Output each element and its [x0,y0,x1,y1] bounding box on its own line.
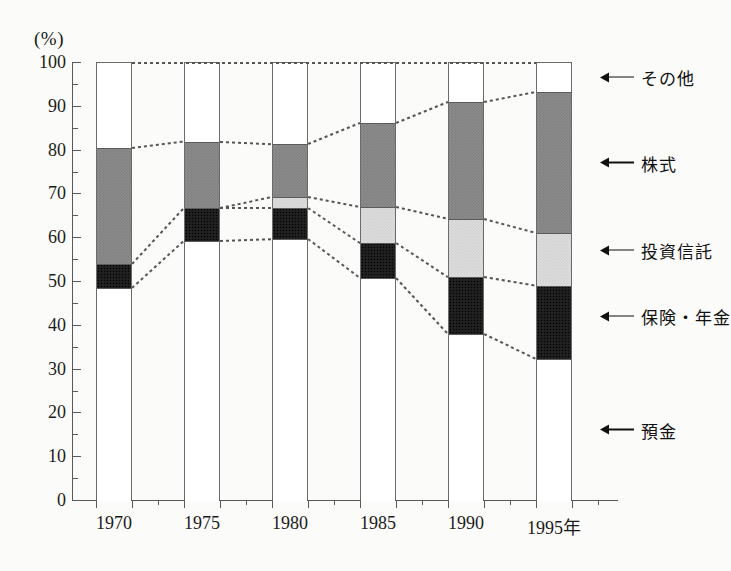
connector-trust [484,218,537,234]
connector-deposits [131,240,184,289]
left-arrow-icon [600,71,634,83]
x-tick [572,500,573,508]
segment-other-1995年[interactable] [537,63,571,92]
segment-stocks-1975[interactable] [185,142,219,208]
segment-insurance-1980[interactable] [273,208,307,239]
segment-divider [97,148,131,149]
x-tick-label-3: 1985 [360,513,396,534]
segment-divider [449,334,483,335]
segment-stocks-1980[interactable] [273,144,307,197]
segment-deposits-1970[interactable] [97,288,131,501]
connector-deposits [484,333,537,360]
segment-other-1985[interactable] [361,63,395,123]
segment-trust-1980[interactable] [273,197,307,208]
y-tick-label-20: 20 [26,403,66,421]
y-tick-10 [72,456,81,457]
x-tick [484,500,485,508]
y-tick-35 [72,347,78,348]
x-tick [272,500,273,508]
segment-insurance-1990[interactable] [449,277,483,334]
y-tick-label-40: 40 [26,316,66,334]
segment-divider [449,277,483,278]
segment-insurance-1995年[interactable] [537,286,571,359]
segment-trust-1990[interactable] [449,219,483,277]
legend-label-4: 預金 [641,417,677,442]
legend-item-0[interactable]: その他 [600,65,695,90]
segment-deposits-1995年[interactable] [537,359,571,501]
legend-item-4[interactable]: 預金 [600,417,677,442]
y-tick-20 [72,412,81,413]
y-tick-label-100: 100 [26,53,66,71]
connector-stocks [220,141,272,145]
y-tick-15 [72,434,78,435]
connector-trust [396,206,448,220]
segment-divider [273,197,307,198]
segment-stocks-1990[interactable] [449,102,483,219]
connector-insurance [484,276,536,287]
connector-deposits [220,238,272,242]
bar-1980[interactable] [272,62,308,500]
connector-total-100 [132,62,536,64]
connector-stocks [396,101,449,124]
segment-divider [361,123,395,124]
x-tick [158,500,159,505]
bar-1995年[interactable] [536,62,572,500]
segment-divider [361,207,395,208]
bar-1985[interactable] [360,62,396,500]
segment-other-1975[interactable] [185,63,219,142]
segment-trust-1995年[interactable] [537,233,571,286]
legend-item-2[interactable]: 投資信託 [600,238,713,263]
segment-divider [185,142,219,143]
y-tick-80 [72,150,81,151]
y-tick-65 [72,215,78,216]
segment-insurance-1985[interactable] [361,243,395,278]
segment-insurance-1970[interactable] [97,264,131,288]
connector-deposits [395,277,448,334]
y-tick-100 [72,62,81,63]
legend-label-0: その他 [641,65,695,90]
segment-deposits-1980[interactable] [273,239,307,501]
bar-1990[interactable] [448,62,484,500]
x-tick-label-1: 1975 [184,513,220,534]
x-tick [246,500,247,505]
segment-divider [273,208,307,209]
y-tick-85 [72,128,78,129]
legend-label-2: 投資信託 [641,238,713,263]
segment-deposits-1990[interactable] [449,334,483,501]
segment-other-1970[interactable] [97,63,131,148]
y-tick-50 [72,281,81,282]
x-tick [220,500,221,508]
segment-other-1990[interactable] [449,63,483,102]
segment-deposits-1985[interactable] [361,278,395,501]
x-tick [598,500,599,505]
y-tick-label-90: 90 [26,97,66,115]
legend-item-1[interactable]: 株式 [600,150,677,175]
segment-other-1980[interactable] [273,63,307,144]
segment-divider [97,264,131,265]
x-tick [536,500,537,508]
segment-divider [449,219,483,220]
bar-1975[interactable] [184,62,220,500]
legend-item-3[interactable]: 保険・年金 [600,304,731,329]
connector-insurance [395,242,448,278]
segment-divider [185,208,219,209]
segment-trust-1985[interactable] [361,207,395,243]
segment-divider [537,286,571,287]
segment-deposits-1975[interactable] [185,241,219,501]
left-arrow-icon [600,244,634,256]
segment-stocks-1970[interactable] [97,148,131,264]
segment-stocks-1995年[interactable] [537,92,571,233]
y-tick-25 [72,391,78,392]
segment-divider [185,241,219,242]
y-tick-label-50: 50 [26,272,66,290]
segment-insurance-1975[interactable] [185,208,219,241]
y-tick-label-30: 30 [26,360,66,378]
x-tick [132,500,133,508]
connector-insurance [131,207,184,264]
bar-1970[interactable] [96,62,132,500]
x-tick [510,500,511,505]
segment-stocks-1985[interactable] [361,123,395,207]
x-tick-label-5: 1995年 [527,513,581,539]
y-tick-label-10: 10 [26,447,66,465]
y-tick-label-60: 60 [26,228,66,246]
